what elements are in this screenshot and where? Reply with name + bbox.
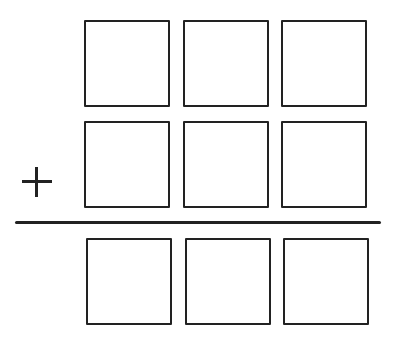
digit-box-r3-c2[interactable] [185,238,271,325]
sum-divider-line [15,221,381,224]
digit-box-r3-c3[interactable] [283,238,369,325]
digit-box-r1-c3[interactable] [281,20,367,107]
digit-box-r2-c2[interactable] [183,121,269,208]
plus-icon-vertical [35,167,38,197]
digit-box-r1-c2[interactable] [183,20,269,107]
digit-box-r2-c3[interactable] [281,121,367,208]
digit-box-r2-c1[interactable] [84,121,170,208]
digit-box-r3-c1[interactable] [86,238,172,325]
digit-box-r1-c1[interactable] [84,20,170,107]
